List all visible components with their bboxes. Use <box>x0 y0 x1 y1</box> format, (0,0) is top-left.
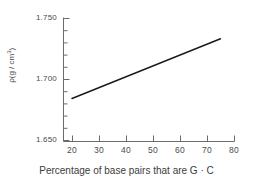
x-tick-label: 40 <box>115 145 137 155</box>
y-tick-label: 1.750 <box>21 13 57 22</box>
x-axis-title: Percentage of base pairs that are G · C <box>0 165 253 176</box>
x-tick-label: 60 <box>169 145 191 155</box>
x-tick-label: 80 <box>223 145 245 155</box>
x-tick-label: 50 <box>142 145 164 155</box>
y-axis-ticks <box>64 19 70 141</box>
x-axis-ticks <box>73 136 235 142</box>
x-tick-label: 70 <box>196 145 218 155</box>
y-axis-title-symbol: ρ <box>7 78 16 83</box>
axes <box>64 18 235 142</box>
plot-area <box>0 0 253 183</box>
y-tick-label: 1.650 <box>21 135 57 144</box>
y-axis-title-units-prefix: (g / cm <box>7 54 16 78</box>
data-series-group <box>72 39 221 99</box>
x-tick-label: 30 <box>88 145 110 155</box>
y-axis-title-units-exponent: 3 <box>6 50 12 53</box>
y-tick-label: 1.700 <box>21 74 57 83</box>
x-tick-label: 20 <box>61 145 83 155</box>
y-axis-title-units-suffix: ) <box>7 48 16 51</box>
chart-figure: 1.6501.7001.750 20304050607080 ρ(g / cm3… <box>0 0 253 183</box>
data-line <box>72 39 221 99</box>
y-axis-title: ρ(g / cm3) <box>6 30 17 100</box>
